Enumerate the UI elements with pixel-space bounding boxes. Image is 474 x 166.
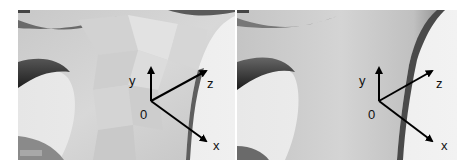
x-axis-arrow-icon: [379, 101, 432, 141]
left-y-label: y: [129, 73, 136, 88]
z-axis-arrow-icon: [379, 71, 432, 101]
left-z-label: z: [207, 76, 214, 91]
right-x-label: x: [441, 138, 448, 153]
right-coordinate-axes: [379, 68, 432, 141]
right-y-label: y: [359, 73, 366, 88]
left-coordinate-axes: [151, 68, 206, 141]
left-x-label: x: [213, 138, 220, 153]
x-axis-arrow-icon: [151, 101, 206, 141]
left-origin-label: 0: [140, 107, 147, 122]
axes-overlay: [0, 0, 474, 166]
right-origin-label: 0: [368, 107, 375, 122]
right-z-label: z: [436, 76, 443, 91]
z-axis-arrow-icon: [151, 71, 206, 101]
